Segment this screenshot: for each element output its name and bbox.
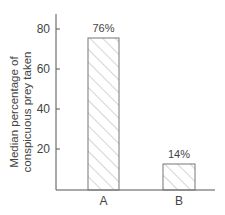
svg-text:Median percentage of: Median percentage of <box>8 56 20 168</box>
bar-chart: Median percentage of conspicuous prey ta… <box>0 0 225 215</box>
svg-text:20: 20 <box>37 142 51 156</box>
svg-text:60: 60 <box>37 62 51 76</box>
svg-text:conspicuous prey taken: conspicuous prey taken <box>21 52 33 173</box>
bar-b-value-label: 14% <box>168 148 190 160</box>
bar-b: 14% B <box>163 148 195 208</box>
category-label-b: B <box>175 194 183 208</box>
y-axis-label: Median percentage of conspicuous prey ta… <box>8 52 33 173</box>
svg-text:80: 80 <box>37 22 51 36</box>
category-label-a: A <box>99 194 107 208</box>
bar-a: 76% A <box>88 22 119 208</box>
svg-text:40: 40 <box>37 102 51 116</box>
bar-a-value-label: 76% <box>92 22 114 34</box>
